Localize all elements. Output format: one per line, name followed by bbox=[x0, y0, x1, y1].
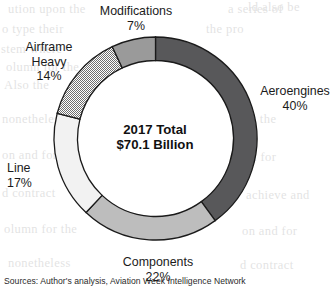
slice-label-percent: 14% bbox=[8, 69, 90, 84]
donut-slice-components bbox=[86, 195, 215, 240]
slice-label-percent: 7% bbox=[88, 19, 184, 34]
slice-label-percent: 17% bbox=[7, 176, 55, 191]
donut-chart-figure: ution upon the a series of o type their … bbox=[0, 0, 334, 291]
slice-label-text: Aeroengines bbox=[260, 84, 330, 98]
slice-label-modifications: Modifications 7% bbox=[88, 4, 184, 33]
slice-label-airframe-heavy: Airframe Heavy 14% bbox=[8, 40, 90, 84]
slice-label-text: Modifications bbox=[100, 4, 172, 18]
center-label-line-2: $70.1 Billion bbox=[95, 137, 215, 152]
slice-label-text-2: Heavy bbox=[8, 55, 90, 70]
slice-label-aeroengines: Aeroengines 40% bbox=[256, 84, 334, 113]
slice-label-percent: 40% bbox=[256, 99, 334, 114]
donut-center-label: 2017 Total $70.1 Billion bbox=[95, 122, 215, 153]
slice-label-text: Line bbox=[7, 161, 30, 175]
source-note: Sources: Author's analysis, Aviation Wee… bbox=[4, 276, 246, 286]
center-label-line-1: 2017 Total bbox=[95, 122, 215, 137]
slice-label-text: Components bbox=[123, 255, 193, 269]
slice-label-line: Line 17% bbox=[7, 161, 55, 190]
slice-label-text: Airframe bbox=[26, 40, 73, 54]
